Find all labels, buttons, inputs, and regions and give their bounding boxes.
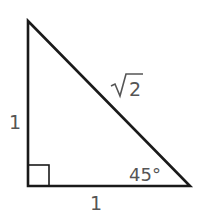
left-leg-label: 1: [9, 111, 21, 133]
hypotenuse-radicand: 2: [129, 78, 141, 100]
right-angle-marker: [28, 165, 49, 186]
angle-label: 45°: [129, 164, 161, 185]
bottom-leg-label: 1: [90, 192, 102, 214]
triangle: [28, 21, 190, 186]
triangle-diagram: 1 1 2 45°: [0, 0, 208, 217]
hypotenuse-label: 2: [111, 74, 143, 100]
